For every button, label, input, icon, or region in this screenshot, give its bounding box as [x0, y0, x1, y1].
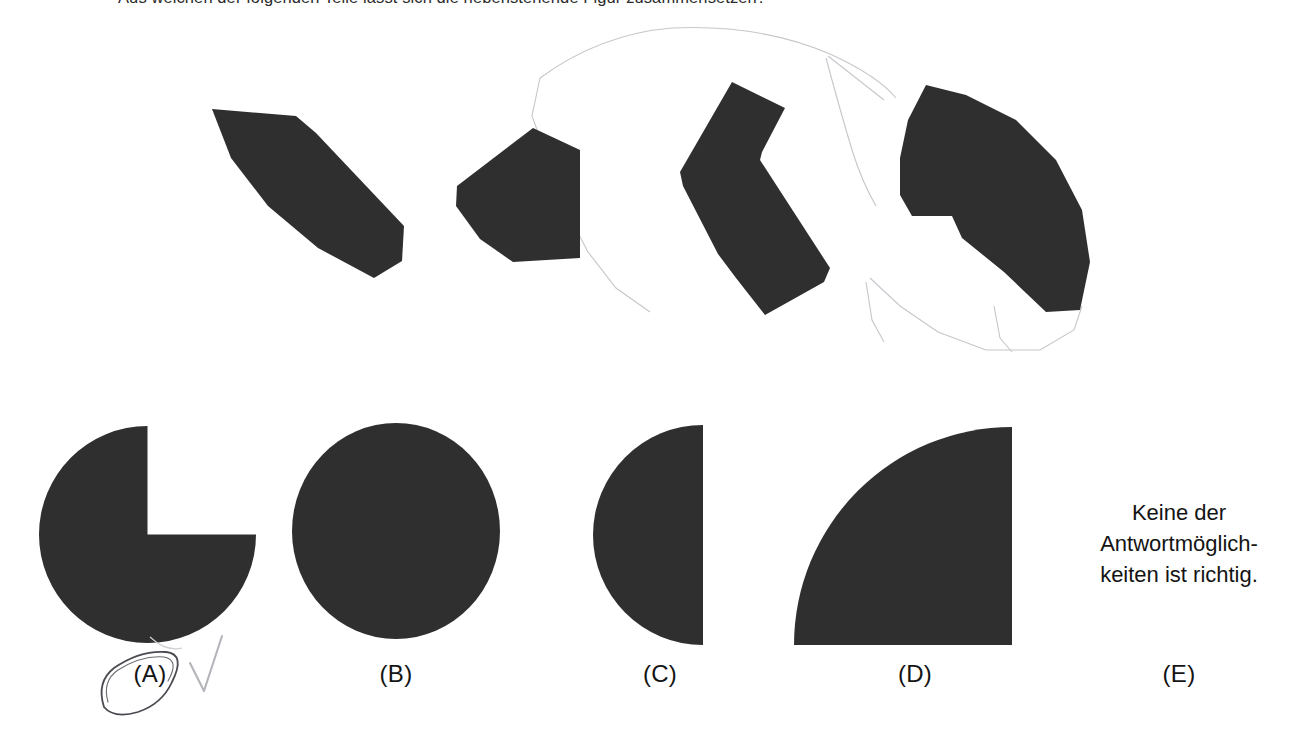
quarter-circle-shape	[794, 427, 1012, 645]
option-c-label: (C)	[565, 660, 755, 688]
option-e[interactable]: Keine der Antwortmöglich- keiten ist ric…	[1055, 405, 1303, 741]
answer-options: (A) (B) (C)	[0, 405, 1303, 741]
option-d[interactable]: (D)	[760, 405, 1070, 741]
test-sheet: Aus welchen der folgenden Teile lässt si…	[0, 0, 1303, 741]
option-e-label: (E)	[1055, 660, 1303, 688]
option-e-line-2: Antwortmöglich-	[1055, 528, 1303, 559]
fragment-4-shape	[900, 85, 1090, 312]
option-e-line-3: keiten ist richtig.	[1055, 559, 1303, 590]
fragment-3-shape	[680, 82, 830, 315]
fragment-1-shape	[212, 109, 404, 278]
option-c[interactable]: (C)	[565, 405, 755, 741]
option-b-label: (B)	[281, 660, 511, 688]
fragment-panel	[0, 20, 1303, 390]
option-a-figure	[30, 417, 265, 656]
question-stem: Aus welchen der folgenden Teile lässt si…	[118, 0, 1188, 7]
half-circle-shape	[593, 425, 703, 645]
option-a[interactable]: (A)	[0, 405, 300, 741]
fragment-2-shape	[456, 128, 580, 262]
option-a-label: (A)	[0, 660, 300, 688]
option-c-figure	[591, 421, 711, 653]
option-b[interactable]: (B)	[281, 405, 511, 741]
option-e-text: Keine der Antwortmöglich- keiten ist ric…	[1055, 497, 1303, 590]
option-d-label: (D)	[760, 660, 1070, 688]
option-e-line-1: Keine der	[1055, 497, 1303, 528]
option-d-figure	[790, 421, 1020, 655]
option-b-figure	[291, 421, 506, 645]
full-circle-shape	[292, 423, 500, 639]
pacman-shape	[39, 426, 256, 643]
